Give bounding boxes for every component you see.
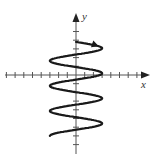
y-axis-label: y (81, 10, 87, 22)
direction-arrow-icon (91, 41, 99, 48)
parametric-plot: y x (0, 0, 162, 167)
y-axis-arrow-icon (73, 13, 80, 22)
axes (5, 18, 145, 154)
x-axis-label: x (140, 78, 146, 90)
tick-marks (6, 32, 137, 145)
